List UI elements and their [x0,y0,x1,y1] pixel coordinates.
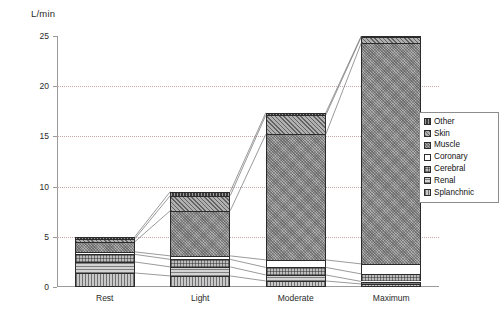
tick-mark [53,237,57,238]
connector-line [135,273,171,276]
bar-segment-splanchnic [361,284,421,287]
legend-swatch-skin-icon [424,130,431,137]
connector-line [326,37,362,115]
connector-line [230,259,266,267]
connector-line [135,262,171,267]
bar-segment-cerebral [170,259,230,267]
y-axis-line [57,36,58,287]
legend-swatch-cerebral-icon [424,166,431,173]
connector-line [230,276,266,281]
x-axis-label-rest: Rest [60,293,150,303]
bar-segment-cerebral [361,274,421,282]
connector-line [326,275,362,282]
x-axis-label-maximum: Maximum [346,293,436,303]
bar-segment-skin [266,115,326,134]
legend-item-other[interactable]: Other [424,116,495,128]
bar-segment-skin [361,37,421,43]
legend-label: Splanchnic [434,189,474,197]
legend-label: Skin [434,130,450,138]
bar-segment-skin [75,239,135,242]
connector-line [326,260,362,264]
cardiac-output-stacked-bar-chart: L/min 0510152025 RestLightModerateMaximu… [0,0,504,317]
y-axis-tick-label: 20 [27,81,49,91]
bar-segment-splanchnic [170,276,230,287]
bar-segment-other [266,113,326,116]
legend-label: Coronary [434,153,468,161]
bar-segment-renal [266,275,326,281]
legend-swatch-other-icon [424,118,431,125]
bar-segment-coronary [361,264,421,274]
tick-mark [53,187,57,188]
y-axis-tick-label: 25 [27,31,49,41]
bar-maximum [361,36,421,287]
connector-line [326,281,362,284]
legend-swatch-coronary-icon [424,154,431,161]
bar-segment-other [75,237,135,239]
connector-line [326,43,362,134]
bar-segment-other [361,36,421,38]
bar-segment-renal [170,267,230,276]
legend-label: Cerebral [434,165,465,173]
connector-line [230,115,266,195]
connector-line [326,36,362,113]
legend-item-muscle[interactable]: Muscle [424,140,495,152]
connector-line [230,134,266,210]
legend-item-coronary[interactable]: Coronary [424,151,495,163]
bar-segment-splanchnic [75,273,135,287]
bar-segment-muscle [170,211,230,256]
legend-item-splanchnic[interactable]: Splanchnic [424,187,495,199]
bar-segment-muscle [75,242,135,252]
legend-label: Other [434,118,454,126]
bar-segment-other [170,192,230,196]
connector-line [135,192,171,237]
bar-segment-muscle [361,43,421,264]
bar-moderate [266,113,326,287]
y-axis-tick-label: 5 [27,232,49,242]
bar-segment-muscle [266,134,326,260]
connector-line [135,196,171,239]
legend-swatch-splanchnic-icon [424,189,431,196]
bar-segment-coronary [75,252,135,255]
bar-segment-cerebral [266,267,326,275]
connector-line [135,252,171,256]
y-axis-tick-label: 10 [27,182,49,192]
legend-item-skin[interactable]: Skin [424,128,495,140]
bar-rest [75,237,135,287]
x-axis-label-moderate: Moderate [251,293,341,303]
bar-segment-skin [170,196,230,211]
connector-line [326,267,362,274]
legend-swatch-renal-icon [424,177,431,184]
legend-label: Muscle [434,141,460,149]
legend-item-cerebral[interactable]: Cerebral [424,163,495,175]
connector-line [230,256,266,260]
y-axis-tick-label: 15 [27,131,49,141]
bar-segment-splanchnic [266,281,326,287]
bar-segment-coronary [266,260,326,268]
bar-light [170,192,230,287]
connector-line [135,254,171,259]
bar-segment-coronary [170,256,230,260]
y-axis-unit-label: L/min [31,8,55,19]
legend-swatch-muscle-icon [424,142,431,149]
bar-segment-cerebral [75,254,135,262]
plot-area: 0510152025 RestLightModerateMaximum [57,36,439,287]
y-axis-tick-label: 0 [27,282,49,292]
legend-label: Renal [434,177,455,185]
tick-mark [53,136,57,137]
connector-line [230,267,266,275]
legend-item-renal[interactable]: Renal [424,175,495,187]
tick-mark [53,36,57,37]
bar-segment-renal [75,262,135,273]
connector-line [230,113,266,192]
tick-mark [53,86,57,87]
bar-segment-renal [361,282,421,285]
x-axis-label-light: Light [155,293,245,303]
chart-legend: OtherSkinMuscleCoronaryCerebralRenalSpla… [419,112,499,203]
tick-mark [53,287,57,288]
